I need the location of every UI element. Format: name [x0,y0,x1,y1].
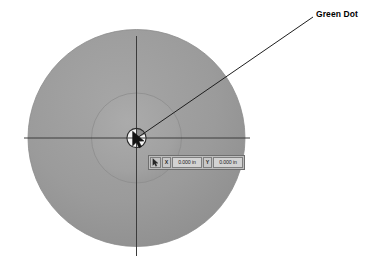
mouse-pointer-icon [150,157,161,168]
callout-label-green-dot: Green Dot [316,9,358,19]
x-coordinate-field[interactable]: 0.000 in [172,157,202,168]
coordinate-readout-toolbar[interactable]: X 0.000 in Y 0.000 in [148,155,245,170]
part-diagram [0,0,387,271]
y-axis-label: Y [203,157,212,168]
figure-canvas: Green Dot X 0.000 in Y 0.000 in [0,0,387,271]
x-axis-label: X [162,157,171,168]
y-coordinate-field[interactable]: 0.000 in [213,157,243,168]
